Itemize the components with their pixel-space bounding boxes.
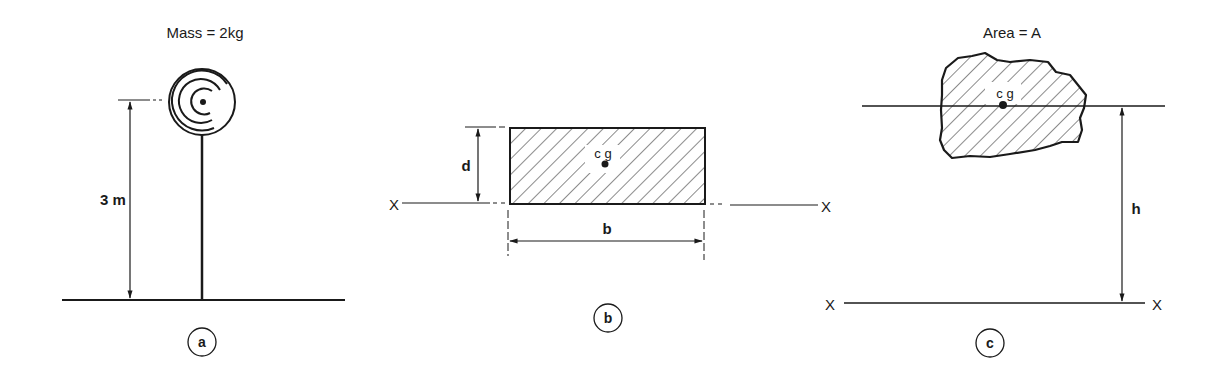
- centroid-label: c g: [996, 86, 1013, 101]
- width-label: b: [602, 220, 611, 237]
- axis-right-label: X: [1152, 296, 1162, 313]
- figure-a: Mass = 2kg 3 m a: [62, 24, 345, 356]
- caption-c: c: [986, 335, 994, 351]
- axis-left-label: X: [389, 196, 399, 213]
- mass-title: Mass = 2kg: [166, 24, 243, 41]
- depth-label: d: [461, 157, 470, 174]
- centroid-dot: [999, 101, 1007, 109]
- distance-label: h: [1131, 200, 1140, 217]
- centroid-dot: [602, 161, 609, 168]
- caption-a: a: [198, 334, 206, 350]
- centroid-label: c g: [594, 146, 611, 161]
- ball-icon: [169, 69, 235, 135]
- axis-right-label: X: [821, 198, 831, 215]
- figure-b: c g X X d b b: [389, 127, 831, 332]
- area-title: Area = A: [983, 24, 1041, 41]
- axis-left-label: X: [825, 296, 835, 313]
- height-label: 3 m: [100, 191, 126, 208]
- figure-c: Area = A c g h X X c: [825, 24, 1165, 357]
- caption-b: b: [604, 310, 613, 326]
- diagram-canvas: Mass = 2kg 3 m a c g X: [0, 0, 1224, 383]
